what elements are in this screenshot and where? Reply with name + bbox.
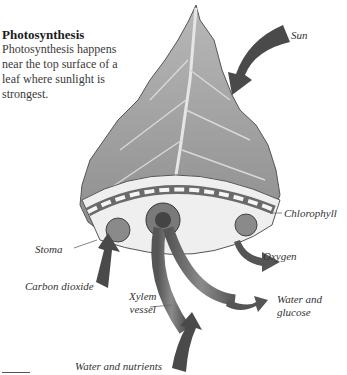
label-oxygen: Oxygen — [263, 250, 297, 263]
label-stoma: Stoma — [35, 243, 63, 256]
diagram-description: Photosynthesis happens near the top surf… — [2, 42, 127, 102]
label-sun: Sun — [291, 29, 308, 42]
label-water-glucose-line2: glucose — [277, 306, 322, 319]
label-carbon-dioxide: Carbon dioxide — [25, 280, 94, 293]
label-water-glucose-line1: Water and — [277, 293, 322, 306]
label-chlorophyll: Chlorophyll — [284, 207, 337, 220]
label-xylem-line2: vessel — [129, 303, 156, 316]
diagram-title: Photosynthesis — [2, 27, 84, 43]
stoma-leader — [74, 240, 97, 248]
label-water-nutrients: Water and nutrients — [75, 360, 162, 373]
divider-rule — [2, 372, 30, 373]
label-xylem-line1: Xylem — [129, 290, 156, 303]
sun-arrow — [228, 25, 290, 95]
label-water-glucose: Water and glucose — [277, 293, 322, 319]
stoma-right — [235, 214, 257, 236]
label-xylem-vessel: Xylem vessel — [129, 290, 156, 316]
